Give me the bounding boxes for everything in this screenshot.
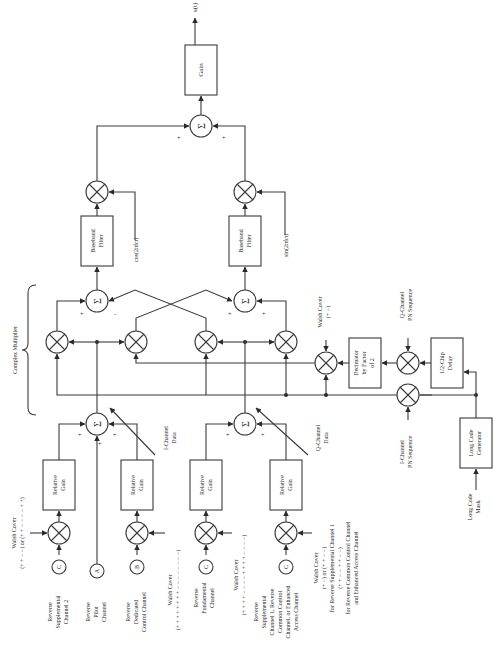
cm-mixer-1 (46, 331, 68, 353)
channel-label: Supplemental (261, 595, 267, 628)
walsh-cover-pattern: (+ + − − + + − −) (337, 547, 344, 589)
cm-mixer-2 (125, 331, 147, 353)
summer-symbol: Σ (92, 298, 103, 304)
walsh-cover-pattern: (+ + + + + + + + − − − − − − − −) (175, 550, 182, 631)
relative-gain-dcch (121, 460, 153, 510)
relative-gain-sup1 (270, 460, 302, 510)
q-pn-mixer (397, 352, 419, 374)
relative-gain-label: Gain (287, 479, 293, 491)
long-code-mask-label: Long Code (467, 493, 473, 520)
walsh-cover-note: for Reverse Common Control Channel (345, 521, 351, 614)
summer-symbol: Σ (196, 123, 207, 129)
sign: + (80, 311, 84, 317)
channel-label: Reverse (85, 602, 91, 622)
channel-label: Fundamental (201, 582, 207, 614)
q-pn-label: PN Sequence (407, 289, 413, 321)
channel-label: Channel 1, Reverse (269, 588, 275, 635)
channel-label: Pilot (93, 606, 99, 618)
filter-label: Baseband (90, 229, 96, 252)
cm-mixer-3 (195, 331, 217, 353)
walsh-cover-pattern: (+ + − −) or (+ + − − − − + +) (19, 497, 26, 569)
node-letter: C (56, 565, 62, 569)
q-channel-data-label: Q-Channel (315, 425, 321, 452)
channel-label: Reverse (193, 588, 199, 608)
relative-gain-label: Relative (279, 475, 285, 495)
q-channel-data-label: Data (323, 432, 329, 444)
walsh-mixer-sup2 (48, 522, 70, 544)
filter-label: Filter (246, 234, 252, 247)
channel-label: Channel (101, 602, 107, 622)
q-mixer (234, 181, 256, 203)
channel-label: Channel 2 (63, 600, 69, 625)
sign: + (261, 432, 265, 438)
relative-gain-label: Gain (60, 479, 66, 491)
i-mixer (86, 181, 108, 203)
walsh-cover-label: Walsh Cover (317, 296, 323, 327)
long-code-mask-label: Mask (475, 500, 481, 513)
walsh-cover-note: for Reverse Supplemental Channel 1 (329, 524, 335, 612)
channel-label: Common Control (277, 591, 283, 634)
complex-multiplier-bracket (22, 285, 36, 415)
channel-label: Reverse (47, 602, 53, 622)
q-pn-label: Q-Channel (399, 292, 405, 319)
delay-label: Delay (447, 356, 453, 370)
sign: - (114, 311, 116, 317)
filter-label: Baseband (238, 229, 244, 252)
walsh-cover-pattern: (+ + + + − − − − + + + + − − − −) (241, 535, 248, 616)
i-pn-label: PN Sequence (407, 436, 413, 468)
walsh-cover-label: Walsh Cover (313, 552, 319, 583)
walsh-mixer-fch (195, 522, 217, 544)
channel-label: Dedicated (133, 600, 139, 624)
gain-label: Gain (197, 63, 205, 77)
sign: + (222, 135, 226, 141)
decimator-label: Decimator (353, 350, 359, 375)
output-label: s(t) (191, 2, 199, 12)
walsh-cover-pattern: (+ −) (325, 306, 332, 318)
walsh-cover-pattern: (+ −) or (+ + − −) (321, 547, 328, 589)
output-stage: s(t) Gain Σ + + (97, 2, 245, 181)
sign: + (262, 311, 266, 317)
filter-label: Filter (98, 234, 104, 247)
summer-symbol: Σ (240, 421, 251, 427)
walsh-cover-note: and Enhanced Access Channel (353, 531, 359, 605)
channel-label: Channel, or Enhanced (285, 585, 291, 638)
sign: + (226, 432, 230, 438)
walsh-mixer-dcch (126, 522, 148, 544)
decimator-label: by Factor (361, 352, 367, 375)
channel-label: Reverse (253, 602, 259, 622)
summer-symbol: Σ (92, 421, 103, 427)
delay-label: 1/2-Chip (439, 352, 445, 373)
node-letter: C (283, 565, 289, 569)
block-diagram: s(t) Gain Σ + + cos(2πfct) sin(2πfct) Ba… (0, 0, 504, 651)
i-channel-data-label: Data (171, 432, 177, 444)
node-letter: C (203, 565, 209, 569)
summer-symbol: Σ (240, 298, 251, 304)
sign: + (98, 441, 102, 447)
i-pn-mixer (397, 384, 419, 406)
relative-gain-label: Relative (130, 475, 136, 495)
channel-label: Channel (209, 588, 215, 608)
cos-carrier-label: cos(2πfct) (133, 238, 140, 262)
sign: + (78, 432, 82, 438)
relative-gain-label: Gain (138, 479, 144, 491)
i-baseband-filter (81, 216, 113, 266)
i-channel-data-label: I-Channel (163, 426, 169, 450)
relative-gain-label: Relative (52, 475, 58, 495)
sign: + (113, 432, 117, 438)
sign: + (228, 311, 232, 317)
walsh-mixer-sup1 (275, 522, 297, 544)
relative-gain-sup2 (43, 460, 75, 510)
lcg-label: Long Code (468, 429, 474, 456)
relative-gain-fch (190, 460, 222, 510)
node-letter: B (134, 565, 140, 569)
channel-label: Reverse (125, 602, 131, 622)
walsh-cover-label: Walsh Cover (11, 517, 17, 548)
lcg-label: Generator (476, 431, 482, 455)
i-pn-label: I-Channel (399, 440, 405, 464)
relative-gain-label: Relative (199, 475, 205, 495)
cm-mixer-4 (275, 331, 297, 353)
complex-multiplier-label: Complex Multiplier (12, 326, 18, 374)
channel-label: Control Channel (141, 592, 147, 632)
walsh-cover-label: Walsh Cover (167, 574, 173, 605)
relative-gain-label: Gain (207, 479, 213, 491)
